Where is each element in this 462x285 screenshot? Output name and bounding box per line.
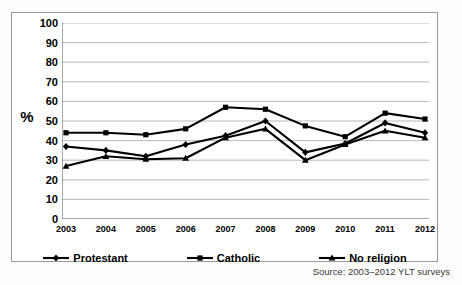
diamond-marker-icon: [53, 254, 59, 261]
series-line: [66, 121, 425, 156]
diamond-marker-icon: [63, 143, 69, 150]
series-protestant: [63, 117, 428, 159]
square-marker-icon: [103, 130, 108, 135]
legend-label: No religion: [349, 252, 406, 264]
square-marker-icon: [422, 116, 427, 121]
y-tick-label: 40: [46, 135, 58, 146]
x-tick-label: 2005: [136, 224, 156, 234]
diamond-marker-icon: [182, 141, 188, 148]
legend-item-protestant[interactable]: Protestant: [42, 252, 127, 264]
y-tick-label: 50: [46, 116, 58, 127]
x-tick-label: 2011: [375, 224, 395, 234]
legend-label: Protestant: [73, 252, 127, 264]
x-tick-label: 2007: [216, 224, 236, 234]
y-tick-label: 80: [46, 57, 58, 68]
square-marker-icon: [63, 130, 68, 135]
x-tick-label: 2009: [295, 224, 315, 234]
x-axis-tick-labels: 2003200420052006200720082009201020112012: [62, 224, 429, 238]
x-tick-label: 2010: [335, 224, 355, 234]
source-note: Source: 2003–2012 YLT surveys: [313, 266, 450, 277]
diamond-marker-icon: [382, 119, 388, 126]
x-tick-label: 2012: [415, 224, 435, 234]
gridlines: [62, 23, 429, 199]
square-marker-icon: [303, 123, 308, 128]
x-tick-label: 2004: [96, 224, 116, 234]
legend-item-catholic[interactable]: Catholic: [186, 252, 260, 264]
y-tick-label: 20: [46, 174, 58, 185]
line-chart-svg: [62, 23, 429, 219]
x-tick-label: 2006: [176, 224, 196, 234]
y-tick-label: 60: [46, 96, 58, 107]
x-tick-label: 2003: [56, 224, 76, 234]
y-axis-tick-labels: 0102030405060708090100: [24, 23, 58, 219]
square-marker-icon: [343, 134, 348, 139]
y-tick-label: 100: [40, 18, 58, 29]
chart-figure: % 0102030405060708090100 200320042005200…: [0, 0, 462, 285]
x-tick-label: 2008: [255, 224, 275, 234]
diamond-marker-icon: [42, 252, 70, 264]
square-marker-icon: [223, 105, 228, 110]
y-tick-label: 10: [46, 194, 58, 205]
y-tick-label: 70: [46, 76, 58, 87]
legend-item-no-religion[interactable]: No religion: [318, 252, 406, 264]
y-tick-label: 0: [52, 214, 58, 225]
legend-label: Catholic: [217, 252, 260, 264]
y-tick-label: 30: [46, 155, 58, 166]
square-marker-icon: [383, 111, 388, 116]
y-tick-label: 90: [46, 37, 58, 48]
square-marker-icon: [263, 107, 268, 112]
square-marker-icon: [186, 252, 214, 264]
square-marker-icon: [143, 132, 148, 137]
square-marker-icon: [183, 126, 188, 131]
plot-area: [62, 23, 429, 219]
triangle-marker-icon: [318, 252, 346, 264]
series-no-religion: [63, 125, 429, 168]
data-series-layer: [63, 105, 429, 169]
square-marker-icon: [197, 255, 202, 260]
